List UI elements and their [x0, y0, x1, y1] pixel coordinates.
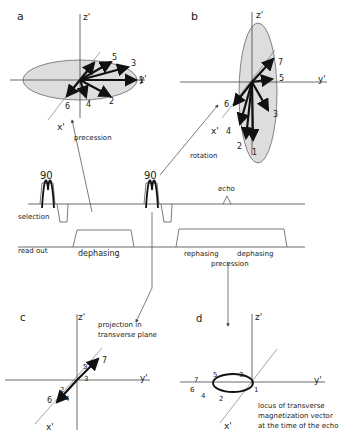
- svg-text:4: 4: [226, 127, 231, 136]
- panel-d-label: d: [196, 313, 202, 324]
- projection-label-2: transverse plane: [98, 331, 157, 339]
- rotation-arrow: [160, 105, 218, 175]
- pulse-90-2: 90: [144, 170, 157, 181]
- svg-text:6: 6: [190, 386, 195, 394]
- svg-text:6: 6: [65, 102, 70, 111]
- axis-z-label: z': [256, 10, 263, 20]
- axis-z-label: z': [83, 12, 90, 22]
- locus-label-3: at the time of the echo: [258, 422, 339, 430]
- axis-y-label: y': [314, 375, 322, 385]
- svg-text:2: 2: [109, 97, 114, 106]
- svg-text:7: 7: [278, 58, 283, 67]
- dephasing-label-1: dephasing: [78, 249, 120, 258]
- svg-text:7: 7: [194, 376, 198, 384]
- svg-text:5: 5: [83, 363, 87, 371]
- svg-text:2: 2: [237, 142, 242, 151]
- locus-label-1: locus of transverse: [258, 402, 325, 410]
- rephasing-label: rephasing: [184, 250, 219, 258]
- axis-x-label: x': [211, 126, 219, 136]
- axis-x-label: x': [57, 122, 65, 132]
- svg-text:1: 1: [139, 76, 144, 85]
- panel-a-label: a: [17, 10, 24, 23]
- pulse-90-1: 90: [40, 170, 53, 181]
- svg-text:1: 1: [254, 386, 258, 394]
- svg-text:2: 2: [60, 386, 64, 394]
- precession-label: precession: [74, 134, 112, 142]
- axis-z-label: z': [255, 312, 262, 322]
- svg-text:3: 3: [131, 59, 136, 68]
- svg-text:2: 2: [219, 395, 223, 403]
- svg-text:5: 5: [112, 53, 117, 62]
- svg-text:5: 5: [279, 74, 284, 83]
- svg-text:4: 4: [201, 392, 206, 400]
- panel-c-label: c: [20, 312, 26, 323]
- panel-a: a z' y' x' 1 2 3 4 5 6: [10, 10, 147, 132]
- readout-label: read out: [18, 247, 48, 255]
- svg-text:6: 6: [47, 396, 52, 405]
- panel-d: d z' y' x' 1 2 3 4 5 6 7 locus of transv…: [180, 312, 339, 431]
- svg-text:3: 3: [239, 371, 243, 379]
- panel-c: c z' y' x' 7 5 3 2 4 6 projection in tra…: [5, 312, 157, 432]
- echo-label: echo: [218, 185, 235, 193]
- svg-text:6: 6: [224, 100, 229, 109]
- rotation-label: rotation: [190, 152, 217, 160]
- projection-label-1: projection in: [98, 321, 142, 329]
- svg-text:5: 5: [213, 371, 217, 379]
- axis-x-label: x': [224, 421, 232, 431]
- pulse-sequence: 90 90 selection read out dephasing echo …: [18, 170, 305, 268]
- svg-text:3: 3: [273, 110, 278, 119]
- svg-text:7: 7: [102, 356, 107, 365]
- selection-label: selection: [18, 213, 49, 221]
- projection-arrow: [136, 288, 152, 322]
- spin-echo-diagram: a z' y' x' 1 2 3 4 5 6 b z' y' x': [0, 0, 354, 441]
- panel-b: b z' y' x' 1 2 3 4 5 6 7: [180, 10, 327, 163]
- axis-x-label: x': [46, 422, 54, 432]
- svg-text:4: 4: [86, 100, 91, 109]
- axis-y-label: y': [140, 373, 148, 383]
- dephasing-label-2: dephasing: [237, 250, 273, 258]
- locus-label-2: magnetization vector: [258, 412, 333, 420]
- panel-b-label: b: [191, 10, 198, 23]
- svg-text:1: 1: [252, 148, 257, 157]
- svg-text:4: 4: [65, 395, 70, 403]
- axis-y-label: y': [318, 74, 326, 84]
- axis-z-label: z': [78, 312, 85, 322]
- locus-ellipse: [213, 374, 253, 392]
- svg-text:3: 3: [84, 375, 88, 383]
- precession-label-2: precession: [211, 260, 249, 268]
